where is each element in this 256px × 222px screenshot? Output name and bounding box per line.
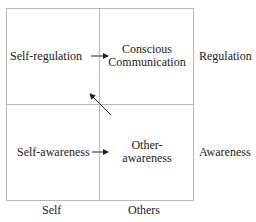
arrow-other-awareness-to-self-regulation bbox=[90, 94, 111, 115]
arrows-layer bbox=[0, 0, 256, 222]
